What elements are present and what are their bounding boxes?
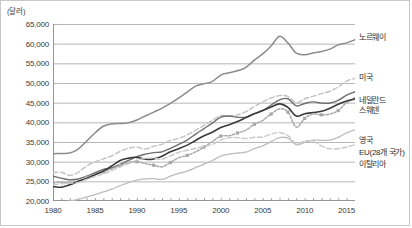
y-axis-tick: 30,000 bbox=[5, 157, 49, 166]
legend-entry: 네덜란드스웨덴 bbox=[359, 96, 386, 116]
y-axis-tick: 55,000 bbox=[5, 59, 49, 68]
y-axis-tick: 65,000 bbox=[5, 20, 49, 29]
x-axis-tick: 2000 bbox=[212, 206, 229, 215]
series-marker bbox=[270, 112, 273, 115]
series-line-6 bbox=[53, 133, 355, 185]
series-marker bbox=[303, 117, 306, 120]
x-axis-tick: 2015 bbox=[338, 206, 355, 215]
legend-entry: 이탈리아 bbox=[359, 160, 386, 170]
legend-label: 노르웨이 bbox=[359, 33, 386, 43]
x-axis-tick: 1995 bbox=[170, 206, 187, 215]
legend-label: 스웨덴 bbox=[359, 106, 386, 116]
series-marker bbox=[219, 135, 222, 138]
y-axis-tick: 50,000 bbox=[5, 79, 49, 88]
x-axis-tick: 1980 bbox=[45, 206, 62, 215]
y-axis-tick: 25,000 bbox=[5, 177, 49, 186]
y-axis-tick: 40,000 bbox=[5, 118, 49, 127]
series-marker bbox=[186, 154, 189, 157]
y-axis-tick: 35,000 bbox=[5, 138, 49, 147]
y-axis-tick: 45,000 bbox=[5, 98, 49, 107]
series-marker bbox=[337, 109, 340, 112]
series-marker bbox=[320, 113, 323, 116]
x-axis-tick: 2010 bbox=[296, 206, 313, 215]
y-axis-tick: 60,000 bbox=[5, 39, 49, 48]
legend-label: 이탈리아 bbox=[359, 160, 386, 170]
legend-label: 미국 bbox=[359, 73, 372, 83]
y-axis-tick-labels: 65,00060,00055,00050,00045,00040,00035,0… bbox=[3, 1, 49, 227]
x-axis-tick: 1990 bbox=[128, 206, 145, 215]
legend-label: 영국 bbox=[359, 136, 372, 146]
legend-entry: 영국 bbox=[359, 136, 372, 146]
series-marker bbox=[236, 131, 239, 134]
series-line-4 bbox=[53, 99, 355, 188]
plot-area bbox=[53, 24, 355, 201]
series-marker bbox=[253, 123, 256, 126]
series-marker bbox=[152, 164, 155, 167]
series-line-1 bbox=[53, 78, 355, 175]
series-marker bbox=[169, 161, 172, 164]
legend-entry: 미국 bbox=[359, 73, 372, 83]
x-axis-tick: 1985 bbox=[86, 206, 103, 215]
series-marker bbox=[286, 111, 289, 114]
legend-entry: EU(28개 국가) bbox=[359, 148, 405, 158]
x-axis-tick: 2005 bbox=[254, 206, 271, 215]
chart-svg bbox=[53, 24, 355, 201]
legend-label: 네덜란드 bbox=[359, 96, 386, 106]
chart-container: (달러) 65,00060,00055,00050,00045,00040,00… bbox=[0, 0, 410, 226]
legend-label: EU(28개 국가) bbox=[359, 148, 405, 158]
x-axis-tick-labels: 19801985199019952000200520102015 bbox=[1, 202, 411, 222]
legend-entry: 노르웨이 bbox=[359, 33, 386, 43]
